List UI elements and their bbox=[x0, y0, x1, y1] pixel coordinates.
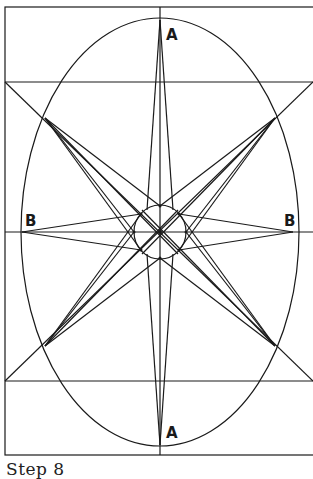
star-point-lower-left bbox=[45, 210, 178, 346]
label-a-top: A bbox=[166, 26, 178, 44]
step-caption: Step 8 bbox=[6, 459, 65, 479]
inner-circle-dot bbox=[178, 213, 181, 216]
inner-circle-dot bbox=[133, 231, 136, 234]
label-a-bottom: A bbox=[166, 424, 178, 442]
label-b-left: B bbox=[25, 212, 36, 230]
label-b-right: B bbox=[284, 212, 295, 230]
star-point-upper-right bbox=[142, 118, 275, 254]
inner-circle-dot bbox=[178, 249, 181, 252]
inner-circle-dot bbox=[159, 205, 162, 208]
star-point-upper-left bbox=[45, 118, 178, 254]
star-point-lower-right bbox=[142, 210, 275, 346]
inner-circle-dot bbox=[140, 249, 143, 252]
inner-circle-dot bbox=[140, 213, 143, 216]
center-dot bbox=[158, 230, 162, 234]
inner-circle-dot bbox=[185, 231, 188, 234]
inner-circle-dot bbox=[159, 257, 162, 260]
